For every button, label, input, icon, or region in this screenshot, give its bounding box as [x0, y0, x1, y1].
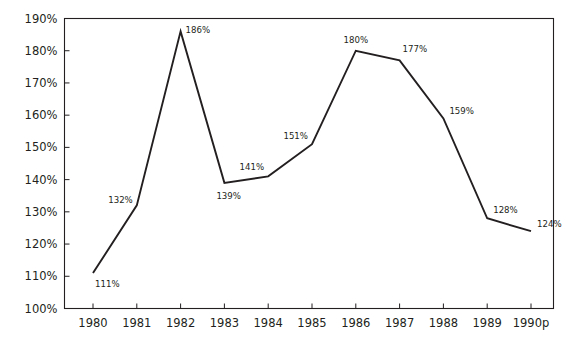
point-label-1981: 132%	[108, 195, 133, 205]
chart-background	[0, 0, 585, 348]
chart-page: 100%110%120%130%140%150%160%170%180%190%…	[0, 0, 585, 348]
point-label-1982: 186%	[186, 25, 211, 35]
x-tick-label-1981: 1981	[122, 316, 151, 330]
point-label-1990p: 124%	[537, 219, 562, 229]
y-tick-label-110: 110%	[25, 269, 58, 283]
x-axis-tick-labels: 1980198119821983198419851986198719881989…	[78, 316, 549, 330]
point-label-1985: 151%	[283, 131, 308, 141]
point-label-1983: 139%	[216, 191, 241, 201]
y-tick-label-160: 160%	[25, 108, 58, 122]
x-tick-label-1980: 1980	[78, 316, 107, 330]
y-tick-label-130: 130%	[25, 205, 58, 219]
point-label-1987: 177%	[403, 44, 428, 54]
line-chart: 100%110%120%130%140%150%160%170%180%190%…	[0, 0, 585, 348]
y-tick-label-170: 170%	[25, 76, 58, 90]
point-label-1980: 111%	[95, 279, 120, 289]
y-tick-label-150: 150%	[25, 140, 58, 154]
x-tick-label-1988: 1988	[429, 316, 458, 330]
y-tick-label-100: 100%	[25, 302, 58, 316]
x-tick-label-1982: 1982	[166, 316, 195, 330]
y-tick-label-190: 190%	[25, 12, 58, 26]
x-tick-label-1986: 1986	[341, 316, 370, 330]
x-tick-label-1983: 1983	[210, 316, 239, 330]
x-tick-label-1990p: 1990p	[513, 316, 550, 330]
x-tick-label-1989: 1989	[473, 316, 502, 330]
point-label-1986: 180%	[344, 35, 369, 45]
x-tick-label-1985: 1985	[297, 316, 326, 330]
point-label-1989: 128%	[493, 205, 518, 215]
y-tick-label-180: 180%	[25, 44, 58, 58]
y-tick-label-140: 140%	[25, 173, 58, 187]
point-label-1988: 159%	[449, 106, 474, 116]
y-tick-label-120: 120%	[25, 237, 58, 251]
x-tick-label-1984: 1984	[254, 316, 283, 330]
point-label-1984: 141%	[240, 162, 265, 172]
x-tick-label-1987: 1987	[385, 316, 414, 330]
